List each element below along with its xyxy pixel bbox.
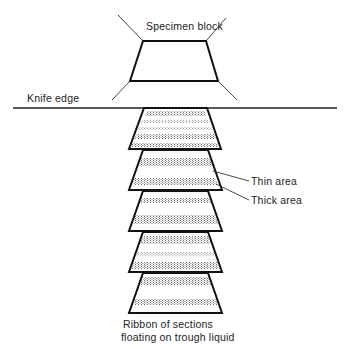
section-2 [129, 150, 222, 190]
microtome-ribbon-diagram: Specimen block Knife edge [0, 0, 350, 349]
thick-band [133, 178, 218, 185]
specimen-block: Specimen block [112, 15, 237, 100]
block-diagonal-bottom-left [112, 81, 130, 100]
thick-band [139, 158, 212, 166]
section-4 [129, 232, 222, 272]
thin-area-label: Thin area [251, 175, 297, 187]
thin-band [138, 127, 213, 130]
thick-band [140, 198, 211, 203]
thick-band [134, 299, 218, 305]
callouts: Thin area Thick area [213, 171, 302, 206]
thin-band [136, 252, 215, 256]
thick-band [131, 143, 220, 147]
section-5 [129, 273, 222, 313]
knife-edge-label: Knife edge [27, 92, 79, 104]
caption-line-2: floating on trough liquid [121, 331, 235, 343]
thin-band [141, 120, 210, 123]
caption-line-1: Ribbon of sections [123, 318, 213, 330]
section-ribbon [129, 108, 222, 313]
thick-band [140, 277, 211, 285]
section-3 [129, 191, 222, 231]
block-face [130, 41, 218, 81]
section-1 [129, 108, 221, 149]
thick-band [132, 262, 220, 269]
knife-edge: Knife edge [13, 92, 337, 108]
thick-area-label: Thick area [251, 194, 302, 206]
thick-area-leader-line [216, 184, 249, 200]
caption: Ribbon of sections floating on trough li… [121, 318, 235, 343]
thick-band [140, 236, 211, 244]
specimen-block-label: Specimen block [146, 20, 223, 32]
block-diagonal-bottom-right [218, 81, 237, 100]
block-diagonal-top-left [118, 15, 143, 41]
thick-band [135, 134, 217, 139]
section-outline [129, 191, 222, 231]
thick-band [133, 215, 218, 224]
thick-band [145, 111, 206, 116]
